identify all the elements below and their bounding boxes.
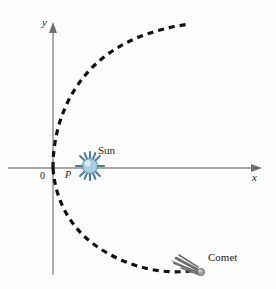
axes-group [8, 22, 262, 275]
x-axis-label: x [252, 172, 257, 183]
comet-label: Comet [208, 252, 237, 263]
orbit-lower-branch [53, 168, 196, 272]
origin-label: 0 [40, 171, 45, 181]
y-axis-arrowhead [49, 22, 57, 33]
comet-head [197, 268, 204, 275]
comet-parabolic-orbit-figure: y x 0 P Sun Comet [0, 0, 276, 289]
sun-highlight [85, 160, 91, 166]
sun-label: Sun [98, 145, 115, 156]
comet-head-highlight [199, 269, 202, 272]
orbit-upper-branch [53, 24, 190, 168]
vertex-point-label: P [65, 170, 71, 180]
sun-core [83, 159, 98, 174]
y-axis-label: y [42, 17, 47, 28]
figure-canvas [0, 0, 276, 289]
sun-icon [76, 152, 104, 180]
orbit-group [53, 24, 196, 272]
